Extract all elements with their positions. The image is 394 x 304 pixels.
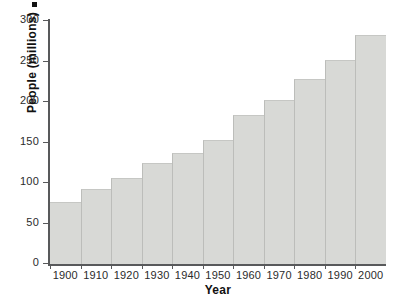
y-tick-label: 150 [20, 135, 39, 148]
y-axis-title: People (millions) [25, 12, 39, 113]
bar-slot: 1990 [325, 21, 356, 264]
x-tick [264, 265, 265, 269]
x-tick-label: 1940 [175, 269, 200, 281]
bar-slot: 1950 [203, 21, 234, 264]
x-tick [325, 265, 326, 269]
y-tick-label: 50 [26, 216, 39, 229]
x-tick [142, 265, 143, 269]
bar-slot: 1910 [81, 21, 112, 264]
x-tick-label: 1920 [114, 269, 139, 281]
bar [81, 189, 112, 264]
bar-slot: 2000 [355, 21, 386, 264]
bar-slot: 1940 [172, 21, 203, 264]
bar [142, 163, 173, 264]
bar-slot: 1920 [111, 21, 142, 264]
x-tick [50, 265, 51, 269]
x-tick-label: 1980 [297, 269, 322, 281]
y-tick: 100 [43, 182, 50, 183]
bar [50, 202, 81, 264]
bar [233, 115, 264, 264]
bar [325, 60, 356, 264]
x-tick [355, 265, 356, 269]
x-tick [294, 265, 295, 269]
y-tick: 200 [43, 101, 50, 102]
x-tick-label: 2000 [358, 269, 383, 281]
y-tick: 50 [43, 223, 50, 224]
x-axis-title: Year [50, 283, 386, 297]
x-tick-label: 1990 [328, 269, 353, 281]
plot-area: 050100150200250300 190019101920193019401… [50, 21, 386, 264]
bar-slot: 1960 [233, 21, 264, 264]
bar-slot: 1980 [294, 21, 325, 264]
bar [203, 140, 234, 264]
x-tick [233, 265, 234, 269]
x-tick-label: 1930 [144, 269, 169, 281]
x-tick [203, 265, 204, 269]
bar [172, 153, 203, 264]
bar-slot: 1930 [142, 21, 173, 264]
y-tick: 150 [43, 142, 50, 143]
y-tick: 0 [43, 263, 50, 264]
bar [111, 178, 142, 264]
x-axis-line [48, 264, 386, 266]
x-tick-label: 1970 [266, 269, 291, 281]
y-tick-label: 100 [20, 175, 39, 188]
cropped-title-mark [32, 2, 37, 7]
y-tick: 250 [43, 61, 50, 62]
y-tick: 300 [43, 20, 50, 21]
x-tick [172, 265, 173, 269]
x-tick-label: 1950 [205, 269, 230, 281]
bar [264, 100, 295, 264]
bar-slot: 1900 [50, 21, 81, 264]
x-tick-label: 1910 [83, 269, 108, 281]
bar-slot: 1970 [264, 21, 295, 264]
bar-series: 1900191019201930194019501960197019801990… [50, 21, 386, 264]
x-tick-label: 1960 [236, 269, 261, 281]
x-tick [111, 265, 112, 269]
y-tick-label: 0 [33, 256, 39, 269]
bar-chart: 050100150200250300 190019101920193019401… [0, 0, 394, 304]
bar [355, 35, 386, 264]
x-tick [81, 265, 82, 269]
bar [294, 79, 325, 264]
x-tick-label: 1900 [53, 269, 78, 281]
